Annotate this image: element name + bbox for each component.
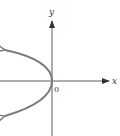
parabola-curve	[5, 50, 52, 116]
x-axis-label: x	[112, 76, 117, 86]
parabola-graph: y x 0	[0, 0, 120, 136]
origin-label: 0	[54, 85, 59, 94]
y-axis-label: y	[48, 7, 55, 17]
